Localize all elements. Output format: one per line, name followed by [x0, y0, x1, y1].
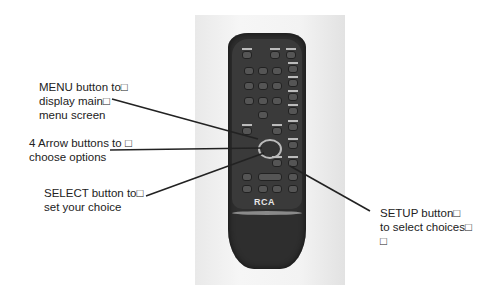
setup-callout: SETUP button□ to select choices□ □: [380, 206, 472, 248]
select-callout: SELECT button to□ set your choice: [44, 186, 143, 214]
select-pointer-line: [146, 153, 264, 196]
menu-pointer-line: [112, 99, 258, 139]
menu-callout: MENU button to□ display main□ menu scree…: [39, 80, 128, 122]
arrows-callout: 4 Arrow buttons to □ choose options: [29, 136, 132, 164]
arrows-pointer-line: [110, 148, 262, 150]
setup-pointer-line: [290, 166, 370, 211]
